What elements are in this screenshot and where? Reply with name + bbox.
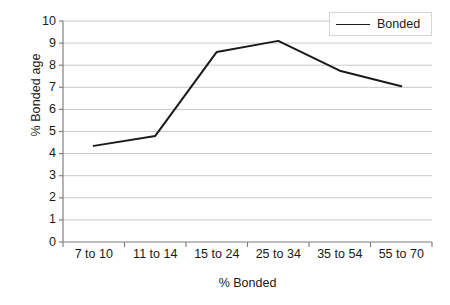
x-axis-tick-label: 15 to 24 [186, 248, 248, 270]
gridlines [63, 21, 432, 220]
x-axis-title: % Bonded [63, 276, 432, 290]
chart-legend: Bonded [329, 12, 432, 36]
legend-line-swatch [336, 24, 370, 25]
legend-label-bonded: Bonded [377, 17, 420, 31]
x-axis-tick-label: 11 to 14 [125, 248, 187, 270]
x-axis-tick-label: 55 to 70 [371, 248, 433, 270]
x-axis-tick-label: 35 to 54 [309, 248, 371, 270]
x-axis-tick-label: 25 to 34 [248, 248, 310, 270]
series-line-bonded [94, 41, 402, 146]
line-chart: % Bonded age 012345678910 7 to 1011 to 1… [0, 0, 450, 305]
x-axis-ticks [63, 242, 432, 247]
x-axis-tick-label: 7 to 10 [63, 248, 125, 270]
x-axis-tick-labels: 7 to 1011 to 1415 to 2425 to 3435 to 545… [63, 248, 432, 270]
